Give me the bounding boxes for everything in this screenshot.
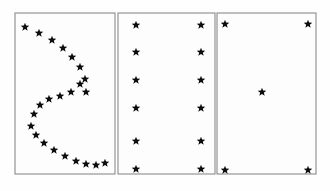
figure-root xyxy=(0,0,330,191)
scatter-figure xyxy=(0,0,330,191)
panel-middle-columns xyxy=(118,13,215,174)
panel-right-corners xyxy=(217,13,316,174)
panel-left-crescent xyxy=(15,13,115,174)
